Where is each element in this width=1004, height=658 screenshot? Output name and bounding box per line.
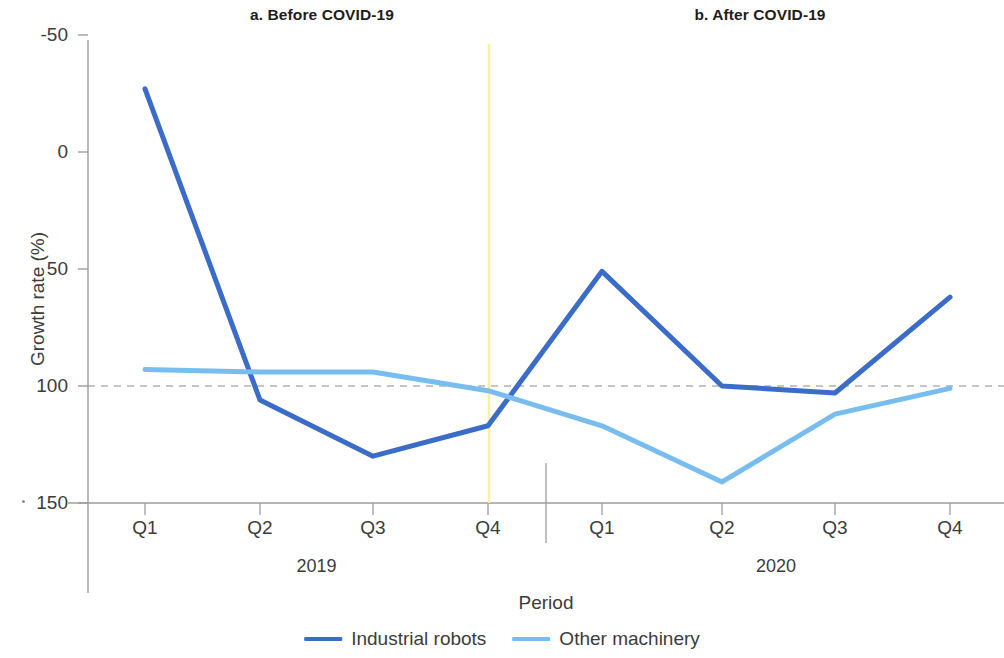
legend-swatch-icon: [512, 637, 550, 641]
legend-label: Industrial robots: [351, 628, 486, 650]
legend-item: Other machinery: [512, 628, 699, 650]
group-label: 2020: [756, 556, 796, 577]
x-tick-label: Q1: [589, 517, 614, 539]
chart-figure: a. Before COVID-19 b. After COVID-19 150…: [0, 0, 1004, 658]
group-label: 2019: [296, 556, 336, 577]
y-axis-label: Growth rate (%): [27, 199, 49, 399]
x-tick-label: Q3: [822, 517, 847, 539]
plot-area: [0, 0, 1004, 658]
legend-swatch-icon: [304, 637, 342, 641]
x-tick-label: Q3: [360, 517, 385, 539]
series-line-industrial-robots: [145, 89, 950, 456]
legend-label: Other machinery: [559, 628, 699, 650]
stray-mark: [22, 500, 25, 503]
annotations-group: [88, 44, 1004, 503]
x-axis-label: Period: [519, 592, 574, 614]
x-tick-label: Q4: [937, 517, 962, 539]
axes-group: [68, 35, 1004, 593]
legend-item: Industrial robots: [304, 628, 486, 650]
x-tick-label: Q4: [475, 517, 500, 539]
x-tick-label: Q1: [132, 517, 157, 539]
x-tick-label: Q2: [709, 517, 734, 539]
chart-legend: Industrial robotsOther machinery: [304, 628, 700, 650]
x-tick-label: Q2: [247, 517, 272, 539]
y-tick-label: 0: [8, 141, 68, 163]
y-tick-label: 150: [8, 492, 68, 514]
series-group: [145, 89, 950, 482]
y-tick-label: -50: [8, 24, 68, 46]
